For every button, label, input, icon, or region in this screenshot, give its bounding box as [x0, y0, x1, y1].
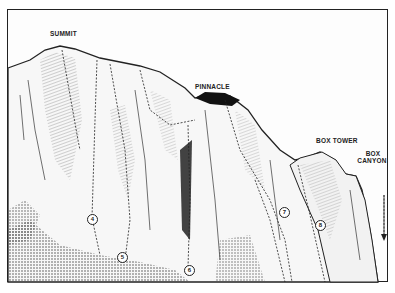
cliff-drawing — [0, 0, 395, 293]
label-box-tower: BOX TOWER — [316, 137, 358, 144]
label-box-canyon-2: CANYON — [355, 157, 389, 164]
route-marker-6: 6 — [184, 265, 195, 276]
route-marker-8: 8 — [315, 220, 326, 231]
label-summit: SUMMIT — [50, 30, 77, 37]
label-pinnacle: PINNACLE — [195, 83, 230, 90]
route-marker-4: 4 — [87, 214, 98, 225]
label-box-canyon-1: BOX — [362, 150, 384, 157]
route-marker-7: 7 — [279, 207, 290, 218]
route-marker-5: 5 — [117, 252, 128, 263]
